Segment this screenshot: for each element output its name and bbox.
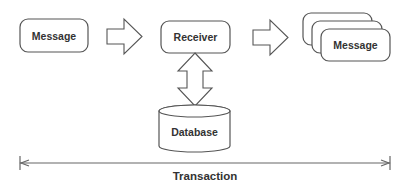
database-label: Database [171, 126, 218, 138]
block-arrow-right-icon [107, 19, 142, 54]
receiver-label: Receiver [174, 31, 218, 43]
database-cylinder-top [159, 105, 230, 117]
transaction-span: Transaction [20, 156, 390, 182]
block-arrow-right-icon [253, 20, 288, 55]
message-out-stack: Message [303, 13, 390, 61]
message-in-node: Message [20, 19, 88, 52]
block-arrow-bidirectional-icon [178, 53, 212, 106]
receiver-node: Receiver [161, 21, 230, 53]
transaction-diagram: Message Receiver Message Database Transa… [0, 0, 404, 185]
message-in-label: Message [32, 30, 77, 42]
transaction-label: Transaction [173, 170, 238, 182]
database-node: Database [159, 105, 230, 152]
message-out-label: Message [333, 39, 378, 51]
